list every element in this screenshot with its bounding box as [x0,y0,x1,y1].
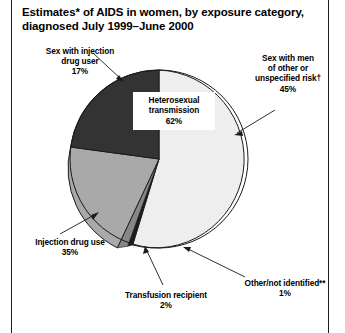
leader-other [183,247,245,277]
label-line-1: Sex with injection [46,46,114,56]
label-line-1: Heterosexual [149,95,200,105]
label-value: 35% [62,247,78,257]
label-line-2: drug user [61,56,98,66]
label-line-1: Other/not identified** [245,278,326,288]
leader-transfusion [143,246,163,285]
label-line-1: Transfusion recipient [125,290,207,300]
label-value: 45% [280,84,296,94]
label-value: 1% [279,288,291,298]
label-sex-with-men-other-risk: Sex with men of other or unspecified ris… [240,53,336,94]
label-line-3: unspecified risk† [255,73,321,83]
label-injection-drug-use: Injection drug use 35% [12,237,128,257]
label-other-not-identified: Other/not identified** 1% [228,278,342,298]
label-heterosexual-transmission: Heterosexual transmission 62% [133,92,215,130]
label-line-1: Injection drug use [35,237,105,247]
label-sex-with-injection-drug-user: Sex with injection drug user 17% [26,46,134,77]
label-line-2: transmission [149,105,199,115]
label-transfusion-recipient: Transfusion recipient 2% [110,290,222,310]
label-line-1: Sex with men [262,53,314,63]
label-value: 62% [166,116,182,126]
label-line-2: of other or [268,63,308,73]
label-value: 2% [160,300,172,310]
label-value: 17% [72,66,88,76]
figure-frame: Estimates* of AIDS in women, by exposure… [0,0,345,333]
